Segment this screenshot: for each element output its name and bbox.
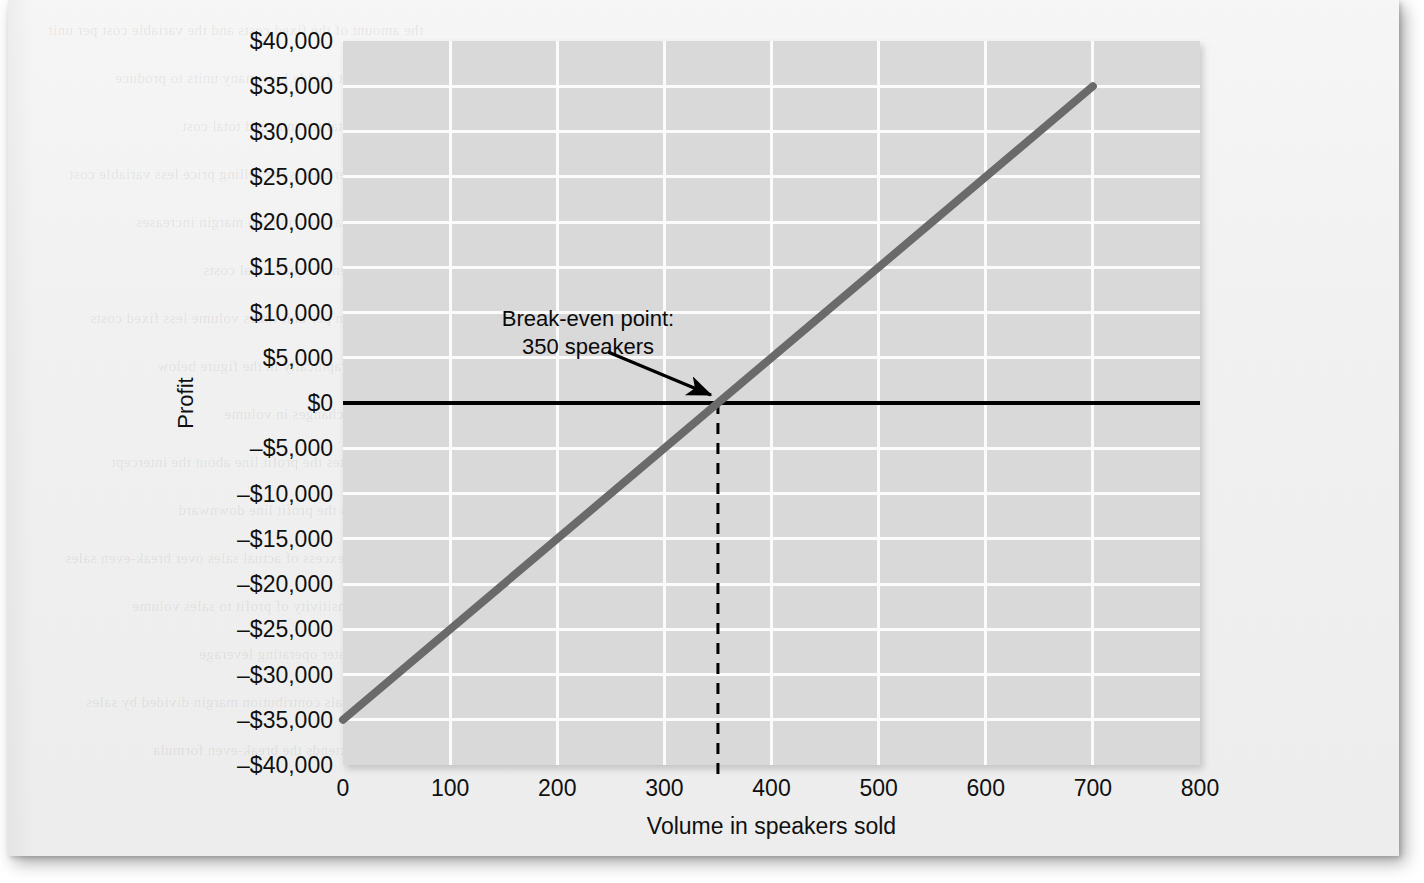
gridline-vertical xyxy=(770,41,773,765)
y-axis-tick-label: $10,000 xyxy=(173,299,333,326)
x-axis-tick-label: 100 xyxy=(390,775,510,802)
y-axis-tick-label: $20,000 xyxy=(173,209,333,236)
gridline-vertical xyxy=(984,41,987,765)
x-axis-tick-label: 400 xyxy=(712,775,832,802)
x-axis-tick-label: 800 xyxy=(1140,775,1260,802)
x-axis-tick-labels: 0100200300400500600700800 xyxy=(343,775,1200,809)
scanned-page-sheet: the amount of the fixed costs and the va… xyxy=(8,0,1399,856)
y-axis-tick-label: $35,000 xyxy=(173,73,333,100)
y-axis-tick-label: –$15,000 xyxy=(173,525,333,552)
y-axis-tick-label: $15,000 xyxy=(173,254,333,281)
x-axis-title: Volume in speakers sold xyxy=(343,813,1200,840)
y-axis-tick-label: –$20,000 xyxy=(173,571,333,598)
y-axis-tick-label: –$30,000 xyxy=(173,661,333,688)
x-axis-tick-label: 200 xyxy=(497,775,617,802)
gridline-vertical xyxy=(449,41,452,765)
plot-area xyxy=(343,41,1200,765)
y-axis-tick-label: $30,000 xyxy=(173,118,333,145)
break-even-chart-figure: $40,000$35,000$30,000$25,000$20,000$15,0… xyxy=(8,0,1399,856)
y-axis-tick-label: –$35,000 xyxy=(173,706,333,733)
gridline-vertical xyxy=(663,41,666,765)
gridline-vertical xyxy=(877,41,880,765)
y-axis-tick-label: $5,000 xyxy=(173,344,333,371)
y-axis-tick-label: –$10,000 xyxy=(173,480,333,507)
y-axis-tick-label: –$5,000 xyxy=(173,435,333,462)
gridline-vertical xyxy=(556,41,559,765)
break-even-annotation-line2: 350 speakers xyxy=(463,333,713,361)
x-axis-tick-label: 0 xyxy=(283,775,403,802)
x-axis-tick-label: 300 xyxy=(604,775,724,802)
y-axis-tick-label: $25,000 xyxy=(173,163,333,190)
break-even-annotation-line1: Break-even point: xyxy=(463,305,713,333)
x-axis-tick-label: 500 xyxy=(819,775,939,802)
break-even-annotation: Break-even point: 350 speakers xyxy=(463,305,713,361)
gridline-vertical xyxy=(1091,41,1094,765)
x-axis-tick-label: 700 xyxy=(1033,775,1153,802)
gridlines xyxy=(343,41,1200,765)
x-axis-tick-label: 600 xyxy=(926,775,1046,802)
y-axis-tick-label: $40,000 xyxy=(173,28,333,55)
y-axis-tick-label: –$25,000 xyxy=(173,616,333,643)
y-axis-title: Profit xyxy=(173,377,199,428)
